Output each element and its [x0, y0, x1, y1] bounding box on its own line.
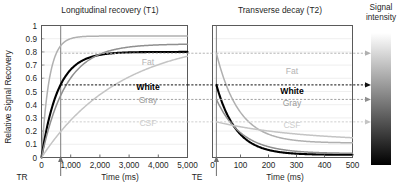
leader-arrowhead-white [365, 82, 371, 87]
panel-t1-title: Longitudinal recovery (T1) [61, 5, 159, 15]
t1-curve-csf [42, 56, 188, 157]
colorbar-title-line1: Signal [370, 3, 393, 12]
panel-t1-x-title: Time (ms) [101, 172, 139, 182]
tissue-label-t2-fat: Fat [286, 66, 299, 76]
colorbar-gradient [371, 33, 391, 165]
y-axis-group: Relative Signal Recovery 00.10.20.30.40.… [3, 22, 45, 163]
panel-t1-x-ticks: 01,0002,0003,0004,0005,000 [39, 155, 198, 171]
leader-arrowhead-fat [365, 51, 371, 56]
y-tick-label: 0.4 [26, 101, 38, 110]
y-tick-label: 0.5 [26, 88, 38, 97]
x-tick-label: 300 [290, 161, 304, 170]
y-axis-title: Relative Signal Recovery [3, 49, 13, 143]
mri-relaxation-figure: Relative Signal Recovery 00.10.20.30.40.… [0, 0, 400, 194]
panel-t2-x-ticks: 0100200300400500 [210, 155, 360, 171]
x-tick-label: 200 [262, 161, 276, 170]
tissue-label-t2-white: White [280, 86, 304, 96]
panel-t2-x-title: Time (ms) [266, 172, 304, 182]
tissue-label-gray: Gray [139, 95, 158, 105]
tissue-label-fat: Fat [142, 57, 155, 67]
y-tick-label: 0.6 [26, 74, 38, 83]
y-tick-label: 0.8 [26, 48, 38, 57]
panel-t2: Transverse decay (T2) 0100200300400500 T… [192, 5, 360, 182]
tr-marker-arrow-head [58, 156, 63, 162]
t1-curve-gray [42, 44, 188, 157]
tissue-label-white: White [136, 82, 160, 92]
tissue-leader-lines [61, 51, 371, 125]
leader-arrowhead-csf [365, 119, 371, 124]
colorbar-title-line2: intensity [366, 13, 397, 22]
x-tick-label: 4,000 [148, 161, 169, 170]
signal-intensity-colorbar: Signal intensity [366, 3, 397, 165]
figure-svg: Relative Signal Recovery 00.10.20.30.40.… [0, 0, 400, 194]
y-tick-label: 1 [32, 22, 37, 31]
x-tick-label: 2,000 [90, 161, 111, 170]
panel-t2-title: Transverse decay (T2) [238, 5, 322, 15]
y-tick-label: 0.7 [26, 61, 38, 70]
x-tick-label: 0 [39, 161, 44, 170]
y-tick-label: 0.9 [26, 35, 38, 44]
x-tick-label: 0 [210, 161, 215, 170]
y-tick-label: 0 [32, 154, 37, 163]
y-tick-label: 0.1 [26, 140, 38, 149]
y-tick-label: 0.2 [26, 127, 38, 136]
t1-curve-fat [42, 36, 188, 157]
x-tick-label: 3,000 [119, 161, 140, 170]
x-tick-label: 400 [318, 161, 332, 170]
leader-arrowhead-gray [365, 97, 371, 102]
x-tick-label: 1,000 [60, 161, 81, 170]
panel-t1-curves [42, 36, 188, 157]
te-marker-label: TE [192, 172, 203, 182]
y-tick-label: 0.3 [26, 114, 38, 123]
tissue-label-csf: CSF [139, 118, 156, 128]
te-marker-arrow-head [214, 156, 219, 162]
tr-marker-label: TR [16, 172, 27, 182]
x-tick-label: 100 [234, 161, 248, 170]
tissue-label-t2-gray: Gray [283, 98, 302, 108]
x-tick-label: 500 [346, 161, 360, 170]
x-tick-label: 5,000 [177, 161, 198, 170]
tissue-label-t2-csf: CSF [283, 120, 300, 130]
panel-t1: Longitudinal recovery (T1) 01,0002,0003,… [16, 5, 198, 182]
